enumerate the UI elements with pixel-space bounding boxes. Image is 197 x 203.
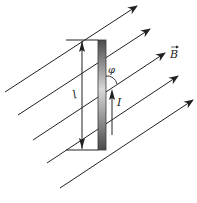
angle-arc [106,76,117,84]
conductor-rod [98,40,106,150]
field-line [60,100,193,188]
field-label: B [169,48,178,61]
field-line [18,29,150,115]
physics-diagram: l φ I B [0,0,197,203]
length-dimension [66,40,98,150]
length-label: l [71,88,79,102]
field-line [5,6,137,92]
diagram-svg: l φ I B [0,0,197,203]
current-label: I [116,96,122,109]
angle-label: φ [108,64,115,75]
